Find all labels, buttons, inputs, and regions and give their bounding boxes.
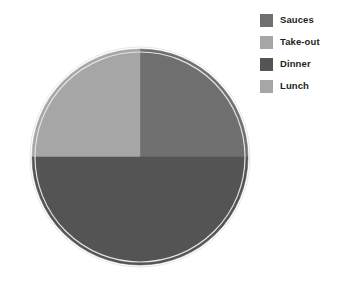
pie-chart-figure: Sauces Take-out Dinner Lunch xyxy=(0,0,344,292)
legend-label-take-out: Take-out xyxy=(280,37,320,47)
pie-slice-group xyxy=(32,49,248,265)
pie-slice-take-out[interactable] xyxy=(32,49,140,157)
legend-swatch-lunch xyxy=(260,80,273,93)
legend-item-dinner[interactable]: Dinner xyxy=(260,53,344,75)
legend-swatch-take-out xyxy=(260,36,273,49)
legend-swatch-dinner xyxy=(260,58,273,71)
pie-chart-plot-area xyxy=(26,34,254,280)
legend-label-sauces: Sauces xyxy=(280,15,314,25)
legend-label-lunch: Lunch xyxy=(280,81,309,91)
legend-item-take-out[interactable]: Take-out xyxy=(260,31,344,53)
legend-item-sauces[interactable]: Sauces xyxy=(260,9,344,31)
pie-chart-svg xyxy=(26,34,254,280)
chart-legend: Sauces Take-out Dinner Lunch xyxy=(260,9,344,97)
legend-item-lunch[interactable]: Lunch xyxy=(260,75,344,97)
legend-swatch-sauces xyxy=(260,14,273,27)
legend-label-dinner: Dinner xyxy=(280,59,311,69)
pie-slice-sauces[interactable] xyxy=(140,49,248,157)
pie-slice-dinner[interactable] xyxy=(32,157,248,265)
